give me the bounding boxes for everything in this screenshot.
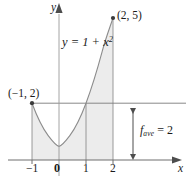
point-label-minus1-2: (−1, 2) <box>8 88 39 100</box>
x-tick-label-2: 2 <box>110 163 116 175</box>
average-value-subscript: ave <box>143 129 154 138</box>
x-tick-label-minus-1: −1 <box>26 163 38 175</box>
average-value-figure: y = 1 + x2 (2, 5) (−1, 2) fave = 2 y x −… <box>0 0 189 187</box>
x-tick-label-0: 0 <box>54 162 60 174</box>
x-axis-label: x <box>178 163 183 175</box>
point-marker-minus1-2 <box>30 101 34 105</box>
point-marker-2-5 <box>111 16 115 20</box>
curve-equation-exponent: 2 <box>109 35 113 44</box>
curve-equation-text: y = 1 + x <box>62 35 109 49</box>
y-axis-arrowhead <box>55 3 62 13</box>
average-value-equation: = 2 <box>154 123 173 137</box>
x-tick-label-1: 1 <box>83 163 89 175</box>
y-axis-label: y <box>51 2 56 14</box>
point-label-2-5: (2, 5) <box>117 10 142 22</box>
average-value-label: fave = 2 <box>140 124 173 138</box>
curve-equation-label: y = 1 + x2 <box>62 36 113 49</box>
